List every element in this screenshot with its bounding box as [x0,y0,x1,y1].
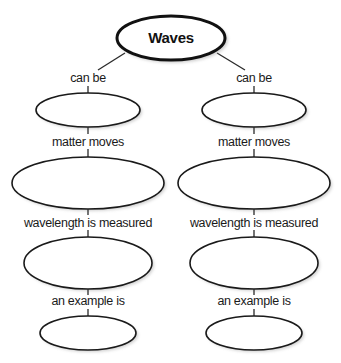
right-node-2[interactable] [178,157,332,211]
left-node-2[interactable] [12,157,166,211]
right-node-4[interactable] [206,316,304,352]
right-node-1[interactable] [202,93,308,129]
right-link-label-1: can be [236,71,272,85]
root-left-connector [98,53,125,70]
concept-map: Waves can be matter moves wavelength is … [0,0,341,363]
left-link-label-2: matter moves [52,135,124,149]
right-link-label-4: an example is [217,294,290,308]
left-link-label-1: can be [70,71,106,85]
left-node-3[interactable] [24,237,154,291]
left-link-label-3: wavelength is measured [23,216,153,230]
right-link-label-2: matter moves [218,135,290,149]
root-label: Waves [148,29,193,46]
left-node-4[interactable] [40,316,138,352]
root-right-connector [217,53,245,70]
root-node[interactable]: Waves [117,16,228,63]
right-link-label-3: wavelength is measured [189,216,319,230]
left-node-1[interactable] [36,93,142,129]
left-link-label-4: an example is [51,294,124,308]
right-node-3[interactable] [190,237,320,291]
